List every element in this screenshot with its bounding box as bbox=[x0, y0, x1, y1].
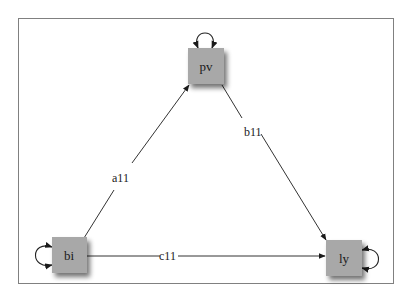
edge-c11: c11 bbox=[86, 249, 325, 263]
node-ly: ly bbox=[326, 240, 362, 276]
node-pv: pv bbox=[188, 48, 224, 84]
edge-label-a11: a11 bbox=[112, 171, 129, 185]
self-loop-ly bbox=[362, 249, 379, 269]
node-label-pv: pv bbox=[200, 59, 214, 74]
edge-label-b11: b11 bbox=[244, 125, 262, 139]
node-bi: bi bbox=[52, 237, 87, 273]
self-loop-bi bbox=[36, 246, 53, 266]
self-loop-pv bbox=[197, 33, 214, 48]
node-label-bi: bi bbox=[64, 248, 75, 263]
node-label-ly: ly bbox=[339, 251, 350, 266]
path-diagram: a11 b11 c11 pv bi ly bbox=[0, 0, 410, 304]
edge-b11: b11 bbox=[222, 85, 326, 240]
edge-label-c11: c11 bbox=[159, 249, 176, 263]
edge-a11: a11 bbox=[84, 85, 189, 238]
